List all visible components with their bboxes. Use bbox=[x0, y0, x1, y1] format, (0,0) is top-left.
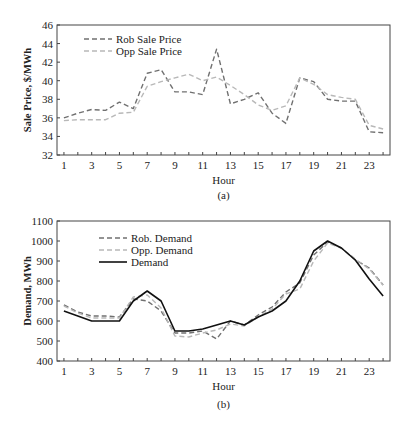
y-tick-label: 900 bbox=[37, 255, 54, 267]
x-tick-label: 5 bbox=[117, 159, 123, 171]
legend-label: Opp. Demand bbox=[131, 244, 193, 256]
y-tick-label: 36 bbox=[42, 112, 54, 124]
legend-label: Opp Sale Price bbox=[116, 45, 182, 57]
y-tick-label: 38 bbox=[42, 93, 54, 105]
x-tick-label: 5 bbox=[117, 365, 123, 377]
series-line-rob-sale-price bbox=[64, 49, 383, 133]
x-tick-label: 3 bbox=[89, 365, 95, 377]
x-tick-label: 19 bbox=[308, 365, 320, 377]
x-axis-label: Hour bbox=[212, 174, 235, 186]
plot-frame bbox=[57, 25, 390, 155]
x-tick-label: 17 bbox=[280, 159, 292, 171]
x-tick-label: 13 bbox=[225, 365, 237, 377]
x-tick-label: 7 bbox=[144, 159, 150, 171]
x-tick-label: 19 bbox=[308, 159, 320, 171]
series-line-opp-sale-price bbox=[64, 74, 383, 129]
x-tick-label: 11 bbox=[197, 365, 208, 377]
sale-price-chart: 32343638404244461357911131517192123HourS… bbox=[22, 19, 390, 202]
y-tick-label: 700 bbox=[37, 295, 54, 307]
x-tick-label: 1 bbox=[61, 159, 67, 171]
figure-caption: (a) bbox=[217, 189, 230, 202]
y-tick-label: 46 bbox=[42, 19, 54, 31]
legend-label: Rob. Demand bbox=[131, 232, 193, 244]
x-tick-label: 21 bbox=[336, 365, 347, 377]
y-tick-label: 500 bbox=[37, 335, 54, 347]
x-tick-label: 17 bbox=[280, 365, 292, 377]
x-tick-label: 11 bbox=[197, 159, 208, 171]
x-tick-label: 9 bbox=[172, 159, 178, 171]
y-tick-label: 32 bbox=[42, 149, 53, 161]
x-tick-label: 23 bbox=[364, 365, 376, 377]
series-line-rob-demand bbox=[64, 242, 383, 339]
legend-label: Rob Sale Price bbox=[116, 33, 181, 45]
x-tick-label: 3 bbox=[89, 159, 95, 171]
figure: 32343638404244461357911131517192123HourS… bbox=[0, 0, 404, 424]
y-tick-label: 600 bbox=[37, 315, 54, 327]
y-tick-label: 40 bbox=[42, 75, 54, 87]
x-tick-label: 15 bbox=[253, 159, 265, 171]
legend-label: Demand bbox=[131, 256, 169, 268]
y-tick-label: 400 bbox=[37, 355, 54, 367]
y-axis-label: Demand, MWh bbox=[22, 256, 33, 326]
figure-caption: (b) bbox=[217, 398, 230, 411]
legend: Rob. DemandOpp. DemandDemand bbox=[99, 232, 193, 268]
demand-chart: 4005006007008009001000110013579111315171… bbox=[22, 215, 390, 411]
x-tick-label: 1 bbox=[61, 365, 67, 377]
x-tick-label: 23 bbox=[364, 159, 376, 171]
x-tick-label: 15 bbox=[253, 365, 265, 377]
y-axis-label: Sale Price, $/MWh bbox=[22, 48, 33, 132]
y-tick-label: 1000 bbox=[31, 235, 54, 247]
x-tick-label: 7 bbox=[144, 365, 150, 377]
y-tick-label: 1100 bbox=[31, 215, 53, 227]
x-tick-label: 9 bbox=[172, 365, 178, 377]
y-tick-label: 800 bbox=[37, 275, 54, 287]
x-tick-label: 13 bbox=[225, 159, 237, 171]
x-tick-label: 21 bbox=[336, 159, 347, 171]
legend: Rob Sale PriceOpp Sale Price bbox=[84, 33, 182, 57]
x-axis-label: Hour bbox=[212, 380, 235, 392]
plot-frame bbox=[57, 221, 390, 361]
y-tick-label: 34 bbox=[42, 130, 54, 142]
y-tick-label: 44 bbox=[42, 38, 54, 50]
y-tick-label: 42 bbox=[42, 56, 53, 68]
